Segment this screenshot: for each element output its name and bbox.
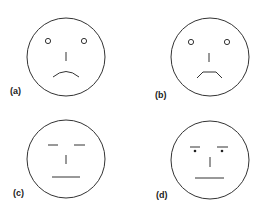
left-eye-icon bbox=[188, 39, 193, 44]
panel-label-b: (b) bbox=[155, 90, 167, 100]
panel-label-c: (c) bbox=[13, 188, 24, 198]
right-eye-icon bbox=[81, 38, 86, 43]
panel-label-a: (a) bbox=[10, 86, 21, 96]
mouth-frown bbox=[197, 72, 222, 78]
left-eye-icon bbox=[45, 38, 50, 43]
face-outline bbox=[171, 18, 249, 96]
panel-label-d: (d) bbox=[156, 190, 168, 200]
face-a bbox=[27, 18, 105, 96]
face-d bbox=[171, 121, 249, 199]
face-c bbox=[27, 120, 105, 198]
face-b bbox=[171, 18, 249, 96]
faces-diagram: (a) (b) (c) (d) bbox=[0, 0, 259, 208]
left-pupil-icon bbox=[194, 150, 197, 153]
right-eye-icon bbox=[224, 39, 229, 44]
mouth-frown bbox=[53, 72, 79, 78]
right-pupil-icon bbox=[221, 150, 224, 153]
